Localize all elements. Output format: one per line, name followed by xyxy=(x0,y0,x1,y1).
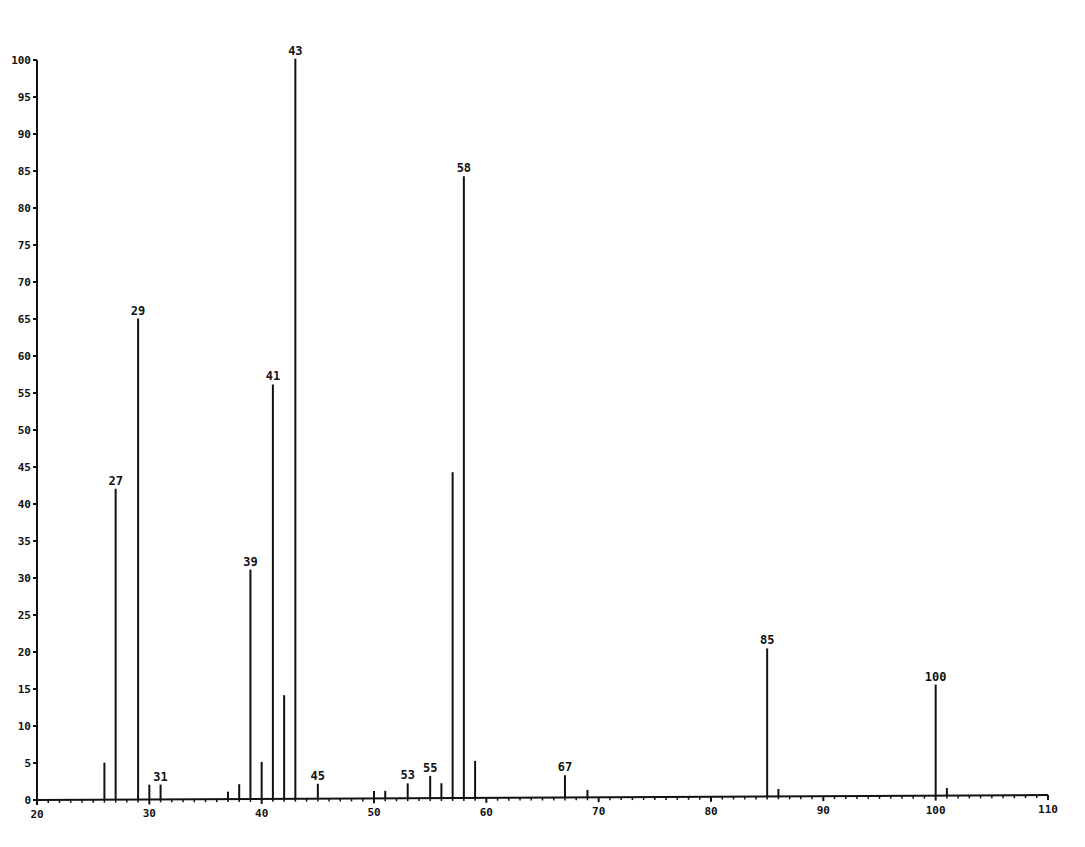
peak-label: 85 xyxy=(760,633,774,647)
peak-labels: 272931394143455355586785100 xyxy=(108,44,946,784)
y-tick-label: 30 xyxy=(18,572,31,585)
y-tick-label: 60 xyxy=(18,350,31,363)
peak-label: 55 xyxy=(423,761,437,775)
y-tick-label: 20 xyxy=(18,646,31,659)
peak-label: 39 xyxy=(243,555,257,569)
y-tick-label: 70 xyxy=(18,276,31,289)
x-tick-label: 80 xyxy=(704,805,717,818)
peak-label: 45 xyxy=(311,769,325,783)
y-tick-label: 35 xyxy=(18,535,31,548)
x-tick-label: 40 xyxy=(255,807,268,820)
y-tick-label: 45 xyxy=(18,461,31,474)
y-tick-label: 90 xyxy=(18,128,31,141)
x-tick-label: 100 xyxy=(926,804,946,817)
peak-label: 67 xyxy=(558,760,572,774)
y-tick-label: 85 xyxy=(18,165,31,178)
peak-label: 29 xyxy=(131,304,145,318)
x-tick-label: 110 xyxy=(1038,803,1058,816)
peak-label: 27 xyxy=(108,474,122,488)
peak-label: 53 xyxy=(400,768,414,782)
y-tick-label: 25 xyxy=(18,609,31,622)
y-tick-label: 5 xyxy=(24,757,31,770)
mass-spectrum-chart: 0510152025303540455055606570758085909510… xyxy=(0,0,1085,847)
x-tick-label: 50 xyxy=(367,806,380,819)
y-tick-label: 65 xyxy=(18,313,31,326)
x-tick-label: 30 xyxy=(143,807,156,820)
peak-label: 31 xyxy=(153,770,167,784)
y-tick-label: 95 xyxy=(18,91,31,104)
x-tick-label: 90 xyxy=(817,804,830,817)
x-tick-label: 20 xyxy=(30,808,43,821)
y-tick-label: 10 xyxy=(18,720,31,733)
y-tick-label: 40 xyxy=(18,498,31,511)
peak-label: 100 xyxy=(925,670,947,684)
y-axis: 0510152025303540455055606570758085909510… xyxy=(11,54,37,807)
y-tick-label: 55 xyxy=(18,387,31,400)
peak-label: 58 xyxy=(457,161,471,175)
x-tick-label: 60 xyxy=(480,806,493,819)
y-tick-label: 80 xyxy=(18,202,31,215)
y-tick-label: 100 xyxy=(11,54,31,67)
peak-label: 41 xyxy=(266,369,280,383)
x-axis: 2030405060708090100110 xyxy=(30,795,1058,821)
x-tick-label: 70 xyxy=(592,805,605,818)
peaks xyxy=(104,59,947,800)
peak-label: 43 xyxy=(288,44,302,58)
y-tick-label: 15 xyxy=(18,683,31,696)
y-tick-label: 50 xyxy=(18,424,31,437)
y-tick-label: 75 xyxy=(18,239,31,252)
y-tick-label: 0 xyxy=(24,794,31,807)
